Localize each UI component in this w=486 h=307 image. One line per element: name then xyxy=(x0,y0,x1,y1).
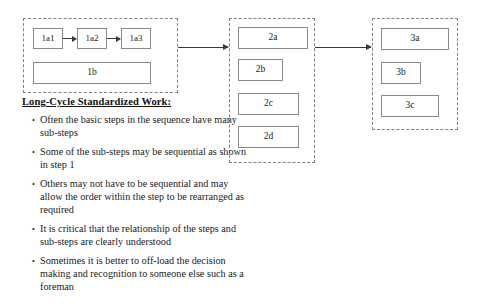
box-1a1-label: 1a1 xyxy=(42,34,55,43)
notes-block: Long-Cycle Standardized Work: Often the … xyxy=(22,96,250,293)
list-item: It is critical that the relationship of … xyxy=(32,223,250,248)
list-item: Some of the sub-steps may be sequential … xyxy=(32,146,250,171)
box-3a: 3a xyxy=(381,28,449,50)
box-1a3-label: 1a3 xyxy=(130,34,143,43)
box-3c-label: 3c xyxy=(406,101,415,111)
box-1a2-label: 1a2 xyxy=(86,34,99,43)
box-1a3: 1a3 xyxy=(121,28,151,49)
box-2d-label: 2d xyxy=(264,132,274,142)
notes-bullet-list: Often the basic steps in the sequence ha… xyxy=(22,114,250,293)
diagram-canvas: 1a1 1a2 1a3 1b 2a 2b 2c 2d 3a 3b 3c Long xyxy=(0,0,486,307)
arrow-step2-to-step3 xyxy=(315,47,371,48)
box-3b: 3b xyxy=(381,62,421,84)
box-2c-label: 2c xyxy=(264,99,273,109)
arrow-1a2-to-1a3 xyxy=(107,38,120,39)
box-1a2: 1a2 xyxy=(77,28,107,49)
arrow-1a1-to-1a2 xyxy=(63,38,76,39)
notes-title: Long-Cycle Standardized Work: xyxy=(22,96,250,107)
box-2b-label: 2b xyxy=(256,65,266,75)
box-3a-label: 3a xyxy=(411,34,420,44)
box-1b: 1b xyxy=(33,62,151,84)
box-1b-label: 1b xyxy=(87,68,97,78)
box-2a: 2a xyxy=(238,27,308,49)
list-item: Sometimes it is better to off-load the d… xyxy=(32,255,250,293)
box-2a-label: 2a xyxy=(269,33,278,43)
box-3c: 3c xyxy=(381,95,439,117)
box-3b-label: 3b xyxy=(396,68,406,78)
box-2b: 2b xyxy=(238,59,283,81)
list-item: Others may not have to be sequential and… xyxy=(32,178,250,216)
list-item: Often the basic steps in the sequence ha… xyxy=(32,114,250,139)
arrow-step1-to-step2 xyxy=(178,47,228,48)
box-1a1: 1a1 xyxy=(33,28,63,49)
